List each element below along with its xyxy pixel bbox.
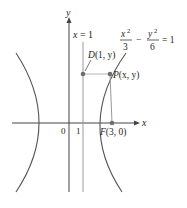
point-P-label: P(x, y)	[112, 70, 139, 81]
segment-PF	[110, 74, 112, 123]
x-axis-arrow-icon	[134, 121, 140, 126]
hyperbola-equation: x 2 3 − y 2 6 = 1	[120, 27, 175, 52]
origin-label: 0	[61, 126, 66, 136]
svg-text:6: 6	[150, 42, 155, 52]
point-F	[110, 121, 115, 126]
point-D	[81, 72, 86, 77]
point-P	[108, 72, 113, 77]
svg-text:x: x	[120, 29, 126, 39]
svg-text:−: −	[136, 35, 141, 45]
svg-text:3: 3	[123, 42, 128, 52]
svg-text:2: 2	[154, 27, 157, 34]
y-axis-label: y	[65, 7, 71, 18]
hyperbola-diagram: x y x = 1 0 1 D(1, y) P(x, y) F(3, 0) x …	[0, 0, 187, 208]
svg-text:2: 2	[127, 27, 130, 34]
x-axis	[12, 121, 140, 126]
x-axis-label: x	[141, 117, 147, 128]
point-D-label: D(1, y)	[87, 50, 115, 61]
y-axis	[67, 17, 72, 192]
svg-text:y: y	[147, 29, 153, 39]
directrix-label: x = 1	[72, 29, 93, 40]
D-leader-line	[85, 60, 91, 71]
point-F-label: F(3, 0)	[99, 127, 126, 138]
tick-1-label: 1	[76, 126, 81, 136]
svg-text:= 1: = 1	[162, 35, 175, 45]
